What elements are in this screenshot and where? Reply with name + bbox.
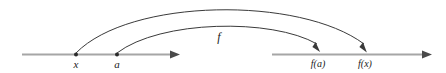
domain-point-dot-x [74,53,78,57]
label-domain-point-x: x [74,59,79,70]
label-domain-point-a: a [114,59,120,70]
label-function-f: f [217,31,220,43]
arc-x-to-fx-arrowhead-icon [359,42,367,52]
function-mapping-figure: x a f(a) f(x) f [0,0,446,73]
codomain-number-line [272,51,432,59]
domain-point-dot-a [115,53,119,57]
arc-a-to-fa-arrowhead-icon [312,42,320,52]
domain-number-line [22,51,180,59]
codomain-axis-arrowhead-icon [422,51,432,59]
arc-x-to-fx [76,10,367,53]
diagram-canvas [0,0,446,73]
label-codomain-point-fx: f(x) [358,59,372,69]
domain-axis-arrowhead-icon [170,51,180,59]
label-codomain-point-fa: f(a) [311,59,325,69]
